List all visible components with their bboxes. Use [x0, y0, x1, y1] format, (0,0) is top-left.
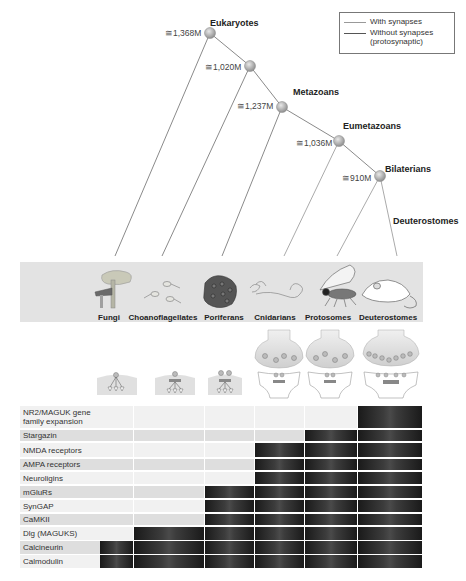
presence-cell-fungi	[100, 486, 134, 498]
presence-cell-cnidarians	[255, 527, 305, 540]
row-label: AMPA receptors	[20, 459, 100, 470]
presence-cell-fungi	[100, 514, 134, 525]
presence-cell-protosomes	[305, 486, 358, 498]
presence-cell-choanoflagellates	[134, 430, 205, 441]
presence-cell-protosomes	[305, 527, 358, 540]
presence-cell-cnidarians	[255, 486, 305, 498]
presence-cell-choanoflagellates	[134, 443, 205, 457]
presence-cell-cnidarians	[255, 541, 305, 554]
presence-cell-choanoflagellates	[134, 555, 205, 568]
presence-cell-deuterostomes	[358, 555, 423, 568]
presence-cell-fungi	[100, 406, 134, 428]
presence-cell-protosomes	[305, 443, 358, 457]
synapse-illustrations	[0, 0, 466, 410]
presence-cell-deuterostomes	[358, 500, 423, 512]
row-label: Calmodulin	[20, 555, 100, 568]
presence-cell-choanoflagellates	[134, 406, 205, 428]
table-row: NR2/MAGUK gene family expansion	[20, 406, 423, 428]
presence-cell-poriferans	[205, 459, 255, 470]
presence-cell-protosomes	[305, 514, 358, 525]
row-label: Calcineurin	[20, 541, 100, 554]
table-row: AMPA receptors	[20, 459, 423, 470]
synapse-icon-deuterostomes	[363, 330, 419, 398]
presence-cell-cnidarians	[255, 430, 305, 441]
row-label: CaMKII	[20, 514, 100, 525]
presence-cell-deuterostomes	[358, 430, 423, 441]
presence-cell-protosomes	[305, 406, 358, 428]
presence-cell-cnidarians	[255, 555, 305, 568]
presence-cell-protosomes	[305, 430, 358, 441]
synapse-icon-protosomes	[306, 330, 354, 398]
row-label: Dlg (MAGUKS)	[20, 527, 100, 540]
table-row: Neuroligins	[20, 472, 423, 484]
presence-cell-protosomes	[305, 500, 358, 512]
presence-cell-fungi	[100, 555, 134, 568]
table-row: SynGAP	[20, 500, 423, 512]
presence-cell-deuterostomes	[358, 527, 423, 540]
protosynapse-icon-2	[155, 372, 195, 396]
presence-cell-fungi	[100, 472, 134, 484]
row-label: Stargazin	[20, 430, 100, 441]
presence-cell-fungi	[100, 527, 134, 540]
presence-cell-deuterostomes	[358, 459, 423, 470]
presence-cell-deuterostomes	[358, 541, 423, 554]
presence-cell-protosomes	[305, 472, 358, 484]
table-row: Calcineurin	[20, 541, 423, 554]
table-row: NMDA receptors	[20, 443, 423, 457]
presence-cell-poriferans	[205, 555, 255, 568]
presence-cell-poriferans	[205, 443, 255, 457]
presence-cell-protosomes	[305, 541, 358, 554]
presence-cell-fungi	[100, 541, 134, 554]
presence-cell-choanoflagellates	[134, 500, 205, 512]
presence-cell-poriferans	[205, 430, 255, 441]
table-row: Dlg (MAGUKS)	[20, 527, 423, 540]
table-row: mGluRs	[20, 486, 423, 498]
presence-cell-choanoflagellates	[134, 527, 205, 540]
row-label: SynGAP	[20, 500, 100, 512]
presence-cell-fungi	[100, 500, 134, 512]
row-label: mGluRs	[20, 486, 100, 498]
presence-cell-deuterostomes	[358, 443, 423, 457]
presence-cell-choanoflagellates	[134, 514, 205, 525]
presence-cell-poriferans	[205, 514, 255, 525]
presence-cell-deuterostomes	[358, 406, 423, 428]
presence-cell-poriferans	[205, 500, 255, 512]
presence-cell-fungi	[100, 459, 134, 470]
presence-cell-choanoflagellates	[134, 486, 205, 498]
synapse-icon-cnidarians	[255, 330, 303, 398]
presence-cell-cnidarians	[255, 459, 305, 470]
table-row: Stargazin	[20, 430, 423, 441]
presence-cell-cnidarians	[255, 406, 305, 428]
row-label: Neuroligins	[20, 472, 100, 484]
presence-cell-protosomes	[305, 555, 358, 568]
presence-cell-poriferans	[205, 541, 255, 554]
presence-cell-protosomes	[305, 459, 358, 470]
table-row: CaMKII	[20, 514, 423, 525]
presence-cell-deuterostomes	[358, 472, 423, 484]
presence-cell-fungi	[100, 430, 134, 441]
presence-cell-poriferans	[205, 486, 255, 498]
presence-cell-choanoflagellates	[134, 472, 205, 484]
presence-cell-fungi	[100, 443, 134, 457]
row-label: NR2/MAGUK gene family expansion	[20, 406, 100, 428]
presence-cell-cnidarians	[255, 472, 305, 484]
presence-cell-deuterostomes	[358, 486, 423, 498]
presence-cell-deuterostomes	[358, 514, 423, 525]
presence-cell-cnidarians	[255, 514, 305, 525]
presence-cell-poriferans	[205, 527, 255, 540]
presence-cell-choanoflagellates	[134, 459, 205, 470]
table-row: Calmodulin	[20, 555, 423, 568]
row-label: NMDA receptors	[20, 443, 100, 457]
protosynapse-icon-3	[208, 371, 242, 396]
presence-cell-choanoflagellates	[134, 541, 205, 554]
presence-cell-cnidarians	[255, 443, 305, 457]
presence-cell-poriferans	[205, 406, 255, 428]
protosynapse-icon-1	[97, 373, 137, 396]
presence-cell-cnidarians	[255, 500, 305, 512]
presence-cell-poriferans	[205, 472, 255, 484]
